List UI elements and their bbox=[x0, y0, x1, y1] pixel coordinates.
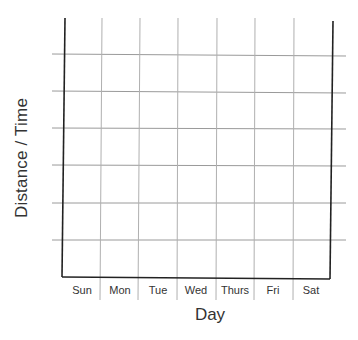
x-tick-label: Thurs bbox=[216, 284, 254, 296]
x-tick-label: Sun bbox=[63, 284, 101, 296]
x-tick-label: Wed bbox=[177, 284, 215, 296]
x-tick-label: Sat bbox=[292, 284, 330, 296]
x-tick-label: Mon bbox=[101, 284, 139, 296]
y-axis-label: Distance / Time bbox=[12, 78, 32, 238]
x-tick-label: Fri bbox=[254, 284, 292, 296]
x-axis-label: Day bbox=[180, 305, 240, 325]
vertical-gridlines bbox=[100, 18, 294, 300]
horizontal-gridlines bbox=[52, 54, 346, 240]
x-tick-label: Tue bbox=[139, 284, 177, 296]
